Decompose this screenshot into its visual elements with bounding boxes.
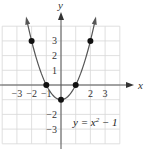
x-axis-label: x xyxy=(137,79,143,91)
y-tick-label: −2 xyxy=(46,109,57,120)
curve-arrow-icon xyxy=(92,17,97,25)
x-tick-label: −1 xyxy=(41,88,52,99)
data-point xyxy=(58,97,64,103)
y-tick-label: −3 xyxy=(46,124,57,135)
x-tick-label: −3 xyxy=(12,88,23,99)
y-tick-label: 1 xyxy=(52,65,57,76)
parabola-graph: x y −3−2−123321−2−3 y = x2 − 1 xyxy=(0,0,145,149)
equation-label: y = x2 − 1 xyxy=(72,116,118,128)
x-tick-label: 3 xyxy=(103,88,108,99)
data-point xyxy=(43,82,49,88)
y-axis-arrow-icon xyxy=(58,12,64,20)
x-axis-arrow-icon xyxy=(126,82,134,88)
axes: x y xyxy=(0,0,143,149)
x-tick-label: −2 xyxy=(26,88,37,99)
y-tick-label: 3 xyxy=(52,35,57,46)
x-tick-label: 2 xyxy=(88,88,93,99)
y-tick-label: 2 xyxy=(52,50,57,61)
data-point xyxy=(73,82,79,88)
y-axis-label: y xyxy=(57,0,63,11)
curve-arrow-icon xyxy=(25,17,30,25)
data-point xyxy=(29,38,35,44)
data-point xyxy=(87,38,93,44)
